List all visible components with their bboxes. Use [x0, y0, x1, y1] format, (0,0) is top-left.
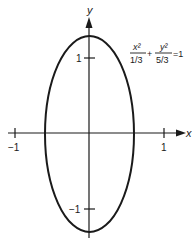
- x-tick-label-neg1: −1: [8, 142, 20, 153]
- y-axis-arrow-icon: [86, 17, 93, 28]
- eq-term2-denominator: 5/3: [156, 55, 169, 65]
- ellipse-diagram: y x −1 1 1 −1 x² 1/3 + y² 5/3 =1: [0, 0, 192, 238]
- x-axis-arrow-icon: [176, 130, 186, 137]
- x-tick-label-pos1: 1: [161, 142, 167, 153]
- eq-term2-numerator: y²: [159, 42, 169, 52]
- y-tick-label-pos1: 1: [76, 53, 82, 64]
- eq-equals-one: =1: [173, 49, 183, 59]
- eq-plus: +: [147, 49, 152, 59]
- equation: x² 1/3 + y² 5/3 =1: [130, 42, 183, 65]
- eq-term1-numerator: x²: [132, 42, 142, 52]
- y-axis-label: y: [86, 4, 94, 16]
- eq-term1-denominator: 1/3: [130, 55, 143, 65]
- x-axis-label: x: [185, 127, 192, 139]
- y-tick-label-neg1: −1: [69, 204, 81, 215]
